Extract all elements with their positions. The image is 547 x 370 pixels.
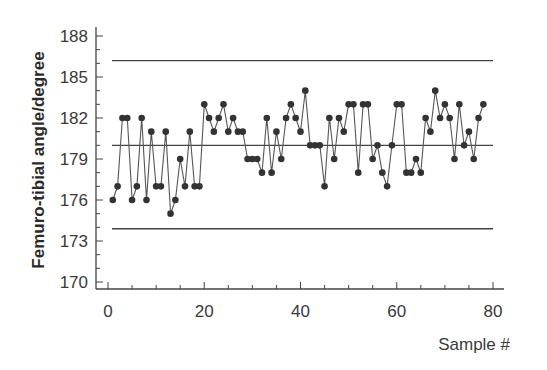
data-point-marker xyxy=(283,115,290,122)
y-tick-label: 188 xyxy=(60,27,88,46)
y-axis-title: Femuro-tibial angle/degree xyxy=(29,51,48,268)
y-tick-label: 170 xyxy=(60,273,88,292)
data-point-marker xyxy=(225,128,232,135)
data-point-marker xyxy=(408,169,415,176)
data-point-marker xyxy=(451,156,458,163)
data-point-marker xyxy=(369,156,376,163)
data-point-marker xyxy=(374,142,381,149)
data-point-marker xyxy=(427,128,434,135)
y-tick-label: 185 xyxy=(60,68,88,87)
data-point-marker xyxy=(336,115,343,122)
series-line xyxy=(113,91,484,214)
data-point-marker xyxy=(143,197,150,204)
data-point-marker xyxy=(321,183,328,190)
data-point-marker xyxy=(162,128,169,135)
data-point-marker xyxy=(341,128,348,135)
x-tick-label: 40 xyxy=(291,302,310,321)
data-point-marker xyxy=(379,169,386,176)
data-point-marker xyxy=(220,101,227,108)
data-point-marker xyxy=(172,197,179,204)
data-point-marker xyxy=(264,115,271,122)
x-axis-title: Sample # xyxy=(438,335,510,354)
control-chart: 170173176179182185188020406080Sample #Fe… xyxy=(0,0,547,370)
reference-lines xyxy=(112,61,493,229)
data-point-marker xyxy=(297,128,304,135)
data-point-marker xyxy=(413,156,420,163)
data-point-marker xyxy=(288,101,295,108)
data-point-marker xyxy=(437,115,444,122)
data-point-marker xyxy=(148,128,155,135)
data-point-marker xyxy=(422,115,429,122)
data-point-marker xyxy=(350,101,357,108)
data-point-marker xyxy=(278,156,285,163)
data-point-marker xyxy=(365,101,372,108)
axes xyxy=(96,27,504,289)
data-point-marker xyxy=(268,169,275,176)
data-point-marker xyxy=(177,156,184,163)
data-point-marker xyxy=(316,142,323,149)
data-point-marker xyxy=(187,128,194,135)
data-point-marker xyxy=(442,101,449,108)
data-point-marker xyxy=(215,115,222,122)
x-tick-label: 80 xyxy=(484,302,503,321)
data-point-marker xyxy=(480,101,487,108)
data-point-marker xyxy=(138,115,145,122)
data-point-marker xyxy=(466,128,473,135)
data-point-marker xyxy=(384,183,391,190)
data-point-marker xyxy=(182,183,189,190)
y-tick-label: 176 xyxy=(60,191,88,210)
x-tick-label: 0 xyxy=(103,302,112,321)
data-point-marker xyxy=(273,128,280,135)
data-point-marker xyxy=(211,128,218,135)
data-point-marker xyxy=(129,197,136,204)
data-point-marker xyxy=(167,210,174,217)
data-point-marker xyxy=(201,101,208,108)
data-point-marker xyxy=(196,183,203,190)
data-point-marker xyxy=(398,101,405,108)
data-point-marker xyxy=(326,115,333,122)
data-point-marker xyxy=(355,169,362,176)
x-tick-label: 60 xyxy=(387,302,406,321)
y-tick-label: 182 xyxy=(60,109,88,128)
data-point-marker xyxy=(230,115,237,122)
data-point-marker xyxy=(259,169,266,176)
x-tick-label: 20 xyxy=(195,302,214,321)
data-series xyxy=(110,87,487,217)
y-tick-label: 173 xyxy=(60,232,88,251)
data-point-marker xyxy=(331,156,338,163)
data-point-marker xyxy=(461,142,468,149)
data-point-marker xyxy=(158,183,165,190)
data-point-marker xyxy=(418,169,425,176)
data-point-marker xyxy=(110,197,117,204)
data-point-marker xyxy=(292,115,299,122)
data-point-marker xyxy=(114,183,121,190)
data-point-marker xyxy=(124,115,131,122)
y-tick-label: 179 xyxy=(60,150,88,169)
data-point-marker xyxy=(446,115,453,122)
data-point-marker xyxy=(470,156,477,163)
data-point-marker xyxy=(389,142,396,149)
data-point-marker xyxy=(456,101,463,108)
data-point-marker xyxy=(432,87,439,94)
data-point-marker xyxy=(239,128,246,135)
axis-labels: 170173176179182185188020406080Sample #Fe… xyxy=(29,27,511,354)
data-point-marker xyxy=(254,156,261,163)
data-point-marker xyxy=(302,87,309,94)
data-point-marker xyxy=(134,183,141,190)
data-point-marker xyxy=(206,115,213,122)
data-point-marker xyxy=(475,115,482,122)
